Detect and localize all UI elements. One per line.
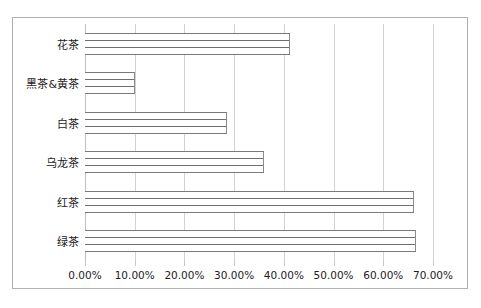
chart-row: 乌龙茶 <box>85 143 433 183</box>
x-axis: 0.00%10.00%20.00%30.00%40.00%50.00%60.00… <box>85 269 433 285</box>
x-tick-50.00% <box>334 261 335 266</box>
category-label-黑茶&黄茶: 黑茶&黄茶 <box>26 75 79 91</box>
cropped-header-text-fragment: — —— — —— —— — —— — ——— — —— — <box>6 0 312 4</box>
x-tick-10.00% <box>135 261 136 266</box>
bar-绿茶[interactable] <box>85 230 416 252</box>
gridline-70.00% <box>433 24 434 261</box>
category-label-乌龙茶: 乌龙茶 <box>46 154 79 170</box>
x-tick-40.00% <box>284 261 285 266</box>
chart-row: 绿茶 <box>85 222 433 262</box>
x-axis-label: 20.00% <box>164 269 204 281</box>
x-axis-label: 10.00% <box>115 269 155 281</box>
x-tick-20.00% <box>184 261 185 266</box>
category-label-花茶: 花茶 <box>57 36 79 52</box>
bar-黑茶&黄茶[interactable] <box>85 72 135 94</box>
plot-area: 花茶黑茶&黄茶白茶乌龙茶红茶绿茶 <box>85 24 433 261</box>
category-label-白茶: 白茶 <box>57 115 79 131</box>
category-label-红茶: 红茶 <box>57 194 79 210</box>
bar-body <box>85 72 135 94</box>
x-tick-70.00% <box>433 261 434 266</box>
bar-乌龙茶[interactable] <box>85 151 264 173</box>
x-axis-label: 40.00% <box>264 269 304 281</box>
cropped-header-text: — —— — —— —— — —— — ——— — —— — <box>0 0 481 9</box>
x-axis-label: 0.00% <box>68 269 101 281</box>
x-axis-label: 50.00% <box>314 269 354 281</box>
chart-frame: 花茶黑茶&黄茶白茶乌龙茶红茶绿茶 0.00%10.00%20.00%30.00%… <box>12 17 468 289</box>
bar-body <box>85 191 414 213</box>
bar-body <box>85 33 290 55</box>
category-label-绿茶: 绿茶 <box>57 233 79 249</box>
chart-row: 红茶 <box>85 182 433 222</box>
x-tick-0.00% <box>85 261 86 266</box>
bar-花茶[interactable] <box>85 33 290 55</box>
chart-row: 花茶 <box>85 24 433 64</box>
chart-row: 白茶 <box>85 103 433 143</box>
bar-红茶[interactable] <box>85 191 414 213</box>
x-axis-label: 30.00% <box>214 269 254 281</box>
bar-body <box>85 230 416 252</box>
x-tick-60.00% <box>383 261 384 266</box>
x-axis-label: 70.00% <box>413 269 453 281</box>
x-axis-label: 60.00% <box>363 269 403 281</box>
bar-白茶[interactable] <box>85 112 227 134</box>
chart-row: 黑茶&黄茶 <box>85 64 433 104</box>
x-tick-30.00% <box>234 261 235 266</box>
bar-body <box>85 112 227 134</box>
bar-body <box>85 151 264 173</box>
